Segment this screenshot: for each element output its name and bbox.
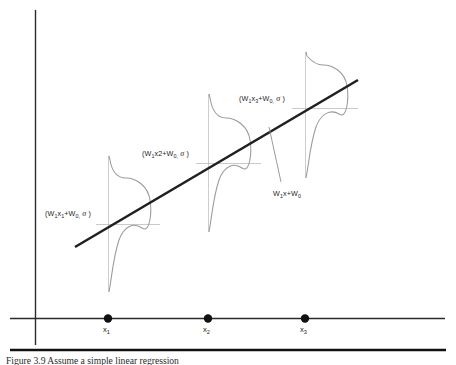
dist-3-sigma: σ: [276, 94, 280, 103]
dist-3-var-sub: 3: [255, 98, 258, 104]
dist-3-close: ): [282, 94, 285, 103]
dist-1-mid: +W: [64, 209, 75, 218]
x-tick-label-2: x2: [203, 326, 210, 334]
dist-2-close: ): [186, 149, 189, 158]
dist-3-w0-sub: 0,: [270, 98, 275, 104]
line-label-x: x+W: [283, 189, 298, 198]
figure-canvas: [0, 0, 456, 365]
data-point-dot-1: [104, 314, 112, 322]
x-tick-3-sub: 3: [304, 329, 307, 335]
dist-1-close: ): [88, 209, 91, 218]
dist-2-w-sub: 1: [151, 153, 154, 159]
line-label-w1-sub: 1: [280, 193, 283, 199]
x-tick-1-sub: 1: [107, 329, 110, 335]
dist-3-open: (W: [239, 94, 248, 103]
figure-caption: Figure 3.9 Assume a simple linear regres…: [6, 355, 452, 365]
dist-1-sigma: σ: [82, 209, 86, 218]
dist-1-open: (W: [45, 209, 54, 218]
regression-figure: (W1x1+W0, σ ) (W1x2+W0, σ ) (W1x3+W0, σ …: [0, 0, 456, 365]
x-tick-2-sub: 2: [207, 329, 210, 335]
distribution-label-2: (W1x2+W0, σ ): [142, 150, 189, 158]
data-point-dot-3: [301, 314, 309, 322]
regression-line: [75, 80, 358, 247]
x-tick-label-1: x1: [103, 326, 110, 334]
dist-1-w0-sub: 0,: [76, 213, 81, 219]
dist-2-sigma: σ: [180, 149, 184, 158]
dist-2-w0-sub: 0,: [174, 153, 179, 159]
data-point-dot-2: [204, 314, 212, 322]
distribution-label-1: (W1x1+W0, σ ): [45, 210, 91, 218]
x-tick-label-3: x3: [300, 326, 307, 334]
dist-1-var-sub: 1: [61, 213, 64, 219]
gaussian-curve-3: [306, 52, 348, 178]
dist-3-mid: +W: [258, 94, 269, 103]
line-label-w0-sub: 0: [298, 193, 301, 199]
regression-line-label: W1x+W0: [273, 190, 301, 197]
line-label-w1: W: [273, 189, 280, 198]
distribution-label-3: (W1x3+W0, σ ): [239, 95, 285, 103]
dist-1-w-sub: 1: [54, 213, 57, 219]
dist-3-w-sub: 1: [248, 98, 251, 104]
regression-line-leader: [269, 127, 281, 182]
dist-2-open: (W: [142, 149, 151, 158]
dist-2-mid: +W: [162, 149, 173, 158]
